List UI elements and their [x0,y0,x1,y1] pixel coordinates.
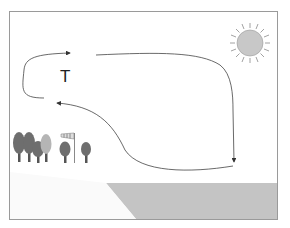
sea-area [106,183,277,219]
sea-breeze-diagram [0,0,290,228]
temperature-label: T [60,67,70,87]
